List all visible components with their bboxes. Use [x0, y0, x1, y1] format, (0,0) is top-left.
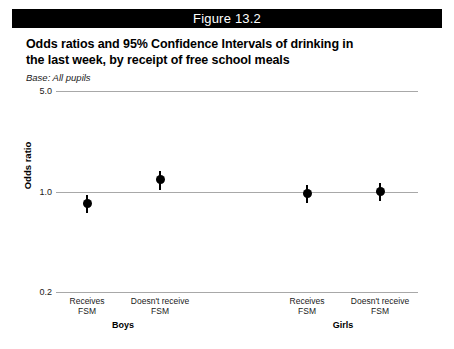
- gridline-0-2: [56, 292, 418, 293]
- marker-boys-no-fsm: [156, 175, 165, 184]
- x-label-girls-no-fsm: Doesn't receive FSM: [335, 296, 425, 316]
- x-group-label-girls: Girls: [298, 320, 388, 331]
- x-label-boys-no-fsm: Doesn't receive FSM: [115, 296, 205, 316]
- y-tick-label-5-0: 5.0: [26, 86, 52, 96]
- figure-container: Figure 13.2 Odds ratios and 95% Confiden…: [0, 0, 454, 349]
- x-group-label-boys: Boys: [78, 320, 168, 331]
- gridline-1-0: [56, 192, 418, 193]
- marker-girls-receives-fsm: [303, 189, 312, 198]
- y-tick-label-1-0: 1.0: [26, 187, 52, 197]
- marker-boys-receives-fsm: [83, 199, 92, 208]
- marker-girls-no-fsm: [376, 187, 385, 196]
- gridline-5-0: [56, 91, 418, 92]
- plot-area: Odds ratio 5.0 1.0 0.2 Receives: [0, 0, 454, 349]
